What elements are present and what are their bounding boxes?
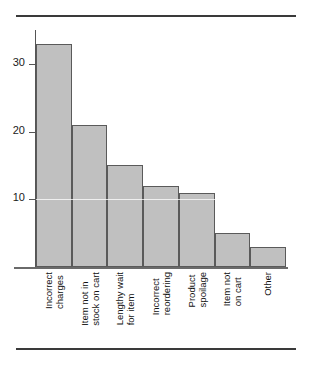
y-tick-mark xyxy=(29,199,36,200)
bottom-horizontal-rule xyxy=(16,348,296,350)
y-tick-mark xyxy=(29,64,36,65)
y-tick-label: 20 xyxy=(13,124,25,136)
x-category-label-text: Productspoilage xyxy=(186,272,207,307)
bar xyxy=(179,193,215,267)
x-category-label-text: Incorrectreordering xyxy=(150,272,171,315)
x-category-label: Incorrectreordering xyxy=(143,272,179,346)
bar xyxy=(36,44,72,267)
y-tick-label: 10 xyxy=(13,191,25,203)
y-tick-mark xyxy=(29,132,36,133)
x-category-label: Other xyxy=(250,272,286,346)
gridline-10 xyxy=(36,199,286,200)
bar-series xyxy=(36,30,286,267)
x-axis-category-labels: IncorrectchargesItem not instock on cart… xyxy=(36,272,286,346)
x-category-label: Item not instock on cart xyxy=(72,272,108,346)
x-category-label: Productspoilage xyxy=(179,272,215,346)
x-axis-line xyxy=(14,267,288,269)
top-horizontal-rule xyxy=(16,15,296,17)
bar xyxy=(215,233,251,267)
x-category-label-text: Item not instock on cart xyxy=(79,272,100,326)
x-category-label-text: Other xyxy=(263,272,274,296)
y-tick-label: 30 xyxy=(13,56,25,68)
bar xyxy=(72,125,108,267)
x-category-label-text: Item noton cart xyxy=(222,272,243,306)
x-category-label: Lengthy waitfor item xyxy=(107,272,143,346)
x-category-label-text: Incorrectcharges xyxy=(43,272,64,309)
bar xyxy=(107,165,143,267)
x-category-label-text: Lengthy waitfor item xyxy=(115,272,136,325)
plot-area: 102030 xyxy=(36,30,286,267)
x-category-label: Incorrectcharges xyxy=(36,272,72,346)
bar xyxy=(250,247,286,267)
pareto-bar-chart-figure: 102030 IncorrectchargesItem not instock … xyxy=(0,0,309,366)
x-category-label: Item noton cart xyxy=(215,272,251,346)
bar xyxy=(143,186,179,267)
